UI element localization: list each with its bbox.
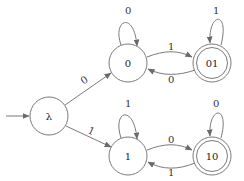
edge-0-to-01 (147, 52, 192, 57)
self-loop-0 (119, 23, 137, 46)
loop-label-0: 0 (125, 5, 131, 16)
state-01-accepting: 01 (193, 44, 231, 82)
state-label-01: 01 (206, 58, 219, 69)
self-loop-10 (210, 113, 223, 138)
automaton-diagram: 0 1 0 1 1 0 1 0 0 1 λ 0 01 1 (0, 0, 244, 181)
edge-label-lambda-to-1: 1 (86, 125, 96, 138)
loop-label-10: 0 (213, 98, 219, 109)
state-0: 0 (109, 44, 147, 82)
state-label-0: 0 (125, 58, 131, 69)
loop-label-1: 1 (125, 98, 131, 109)
self-loop-1 (119, 115, 137, 139)
edge-label-0-to-01: 1 (168, 41, 174, 52)
state-label-lambda: λ (46, 111, 53, 122)
loop-label-01: 1 (213, 5, 219, 16)
state-10-accepting: 10 (193, 137, 231, 175)
edge-label-lambda-to-0: 0 (78, 74, 89, 87)
edge-lambda-to-0 (65, 73, 111, 105)
state-1: 1 (109, 137, 147, 175)
edge-label-1-to-10: 0 (168, 134, 174, 145)
edge-1-to-10 (147, 145, 192, 150)
state-lambda: λ (30, 97, 68, 135)
edge-label-10-to-1: 1 (168, 167, 174, 178)
state-label-1: 1 (125, 151, 131, 162)
self-loop-01 (210, 19, 223, 45)
state-label-10: 10 (206, 151, 219, 162)
edge-label-01-to-0: 0 (168, 74, 174, 85)
